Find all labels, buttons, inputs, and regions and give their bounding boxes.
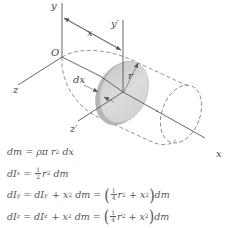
eq2-fraction: 12 — [35, 167, 41, 180]
equation-dIz: dIz = dIz′ + x2 dm = (14r2 + x2)dm — [7, 206, 170, 228]
eq4-exp2: 2 — [122, 213, 126, 219]
eq3-rparen: ) — [149, 186, 154, 203]
eq1-m: m — [13, 147, 22, 157]
eq4-lparen: ( — [104, 208, 109, 225]
eq2-dm: dm — [54, 169, 69, 179]
center-dot — [156, 110, 158, 112]
eq3-dI: dI — [7, 190, 17, 200]
eq1-dx: dx — [62, 147, 73, 157]
eq3-sub: y — [17, 191, 20, 198]
eq3-equals2: = — [93, 190, 101, 200]
z-prime-axis-label: z′ — [69, 123, 78, 134]
eq1-equals: = — [25, 147, 33, 157]
eq4-equals: = — [23, 212, 31, 222]
eq3-lparen: ( — [104, 186, 109, 203]
eq4-dm: dm — [75, 212, 90, 222]
disk-element-diagram: y y′ O x z dx r z′ x — [0, 0, 225, 160]
dx-label: dx — [73, 74, 85, 85]
eq4-exp: 2 — [68, 213, 72, 219]
dx-arrow-left — [84, 85, 98, 92]
eq3-plus2: + — [129, 190, 137, 200]
eq4-plus2: + — [129, 212, 137, 222]
equations-block: dm = ρπ r2 dx dIx = 12 r2 dm dIy = dIy′ … — [7, 141, 170, 227]
eq4-equals2: = — [93, 212, 101, 222]
eq4-sub-prime: z′ — [44, 212, 49, 219]
y-axis-label: y — [50, 0, 57, 11]
eq3-exp2: 2 — [122, 192, 126, 198]
eq4-fraction: 14 — [110, 210, 116, 223]
eq3-fraction: 14 — [111, 188, 117, 201]
z-axis-label: z — [12, 84, 19, 95]
eq4-rparen: ) — [149, 208, 154, 225]
equation-dm: dm = ρπ r2 dx — [7, 141, 170, 163]
eq2-equals: = — [23, 169, 31, 179]
y-prime-axis-label: y′ — [110, 18, 120, 29]
eq4-sub: z — [17, 212, 20, 219]
eq4-plus: + — [51, 212, 59, 222]
origin-label: O — [51, 47, 59, 58]
z-axis — [18, 57, 62, 85]
eq2-sub: x — [17, 169, 20, 176]
eq3-plus: + — [52, 190, 60, 200]
eq2-dI: dI — [7, 169, 17, 179]
eq3-dI-prime: dI — [34, 190, 44, 200]
eq1-exp: 2 — [56, 149, 60, 155]
eq3-dm: dm — [75, 190, 90, 200]
equation-dIy: dIy = dIy′ + x2 dm = (14r2 + x2)dm — [7, 184, 170, 206]
eq3-dm2: dm — [155, 190, 170, 200]
eq3-equals: = — [23, 190, 31, 200]
eq3-sub-prime: y′ — [44, 191, 49, 198]
x-dimension-label: x — [87, 27, 93, 38]
eq4-dI: dI — [7, 212, 17, 222]
eq4-dI-prime: dI — [34, 212, 44, 222]
equation-dIx: dIx = 12 r2 dm — [7, 163, 170, 185]
eq1-rho-pi: ρπ — [36, 147, 48, 157]
eq3-exp: 2 — [68, 192, 72, 198]
eq2-exp: 2 — [47, 170, 51, 176]
eq4-dm2: dm — [154, 212, 169, 222]
x-axis-label: x — [216, 148, 222, 159]
